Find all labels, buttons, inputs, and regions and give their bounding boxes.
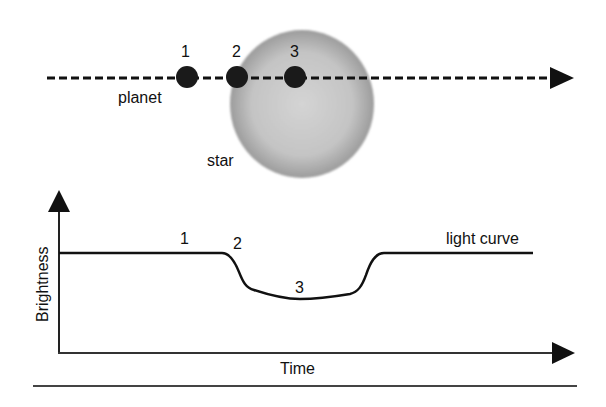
path-arrowhead-icon: [550, 67, 574, 89]
curve-point-label-1: 1: [180, 230, 189, 247]
planet-label: planet: [118, 89, 162, 106]
x-axis-arrowhead-icon: [552, 342, 575, 364]
star-label: star: [207, 152, 234, 169]
curve-point-label-2: 2: [233, 235, 242, 252]
light-curve-label: light curve: [446, 230, 519, 247]
position-label-2: 2: [232, 43, 241, 60]
planet-position-3: [284, 66, 306, 88]
light-curve-panel: 1 2 3 light curve Brightness Time: [34, 190, 575, 377]
position-label-1: 1: [181, 43, 190, 60]
position-label-3: 3: [290, 43, 299, 60]
y-axis-label: Brightness: [34, 246, 51, 322]
planet-position-2: [226, 66, 248, 88]
y-axis-arrowhead-icon: [48, 190, 70, 212]
x-axis-label: Time: [280, 360, 315, 377]
transit-panel: 1 2 3 planet star: [47, 30, 574, 178]
planet-position-1: [176, 66, 198, 88]
curve-point-label-3: 3: [295, 279, 304, 296]
transit-diagram: 1 2 3 planet star 1 2 3 light curve Brig…: [0, 0, 606, 407]
star-disc: [230, 30, 374, 178]
